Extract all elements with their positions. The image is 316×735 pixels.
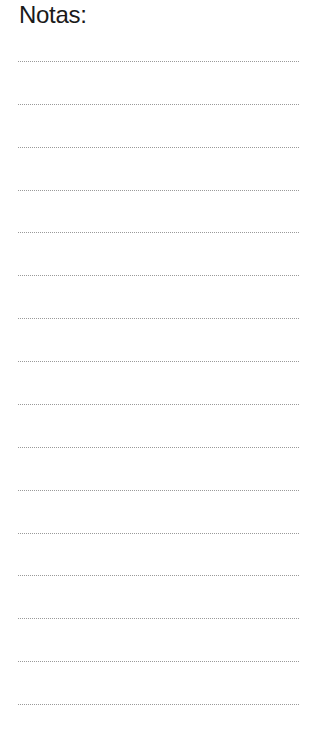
note-line — [18, 661, 299, 662]
note-line — [18, 575, 299, 576]
note-line — [18, 447, 299, 448]
note-line — [18, 533, 299, 534]
note-line — [18, 361, 299, 362]
note-line — [18, 618, 299, 619]
note-line — [18, 704, 299, 705]
note-line — [18, 404, 299, 405]
note-line — [18, 490, 299, 491]
note-line — [18, 61, 299, 62]
note-line — [18, 104, 299, 105]
note-line — [18, 232, 299, 233]
note-line — [18, 318, 299, 319]
notes-heading: Notas: — [19, 1, 87, 29]
note-line — [18, 190, 299, 191]
note-line — [18, 275, 299, 276]
note-line — [18, 147, 299, 148]
